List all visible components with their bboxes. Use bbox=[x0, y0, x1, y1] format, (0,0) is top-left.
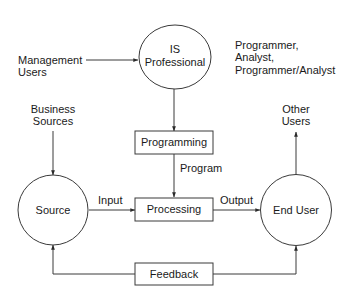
business-sources-line2: Sources bbox=[33, 115, 74, 127]
roles-line2: Analyst, bbox=[235, 51, 274, 63]
roles-line3: Programmer/Analyst bbox=[235, 64, 335, 76]
management-users-line1: Management bbox=[18, 54, 82, 66]
edge-label-input: Input bbox=[98, 194, 122, 206]
is-professional-label-line1: IS bbox=[170, 43, 180, 55]
feedback-label: Feedback bbox=[150, 268, 199, 280]
node-is-professional: IS Professional bbox=[139, 25, 211, 89]
node-programming: Programming bbox=[135, 131, 213, 154]
information-system-diagram: IS Professional Source End User Programm… bbox=[0, 0, 348, 304]
other-users-label: Other Users bbox=[282, 103, 311, 127]
other-users-line1: Other bbox=[282, 103, 310, 115]
business-sources-label: Business Sources bbox=[31, 103, 76, 127]
end-user-label: End User bbox=[273, 204, 319, 216]
management-users-label: Management Users bbox=[18, 54, 82, 78]
programming-label: Programming bbox=[141, 136, 207, 148]
source-label: Source bbox=[36, 204, 71, 216]
roles-line1: Programmer, bbox=[235, 39, 299, 51]
other-users-line2: Users bbox=[282, 115, 311, 127]
node-source: Source bbox=[18, 175, 88, 245]
node-processing: Processing bbox=[135, 198, 213, 221]
is-professional-label-line2: Professional bbox=[145, 56, 206, 68]
edge-feedback-to-source bbox=[53, 245, 135, 274]
node-end-user: End User bbox=[261, 175, 332, 246]
business-sources-line1: Business bbox=[31, 103, 76, 115]
edge-label-program: Program bbox=[180, 162, 222, 174]
edge-label-output: Output bbox=[220, 194, 253, 206]
roles-label: Programmer, Analyst, Programmer/Analyst bbox=[235, 39, 335, 76]
node-feedback: Feedback bbox=[135, 263, 213, 285]
processing-label: Processing bbox=[147, 203, 201, 215]
edge-feedback-to-end-user bbox=[213, 246, 296, 274]
management-users-line2: Users bbox=[18, 66, 47, 78]
